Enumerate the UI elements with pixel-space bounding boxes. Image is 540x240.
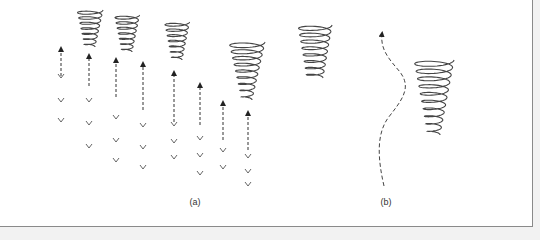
down-chevron-icon bbox=[245, 154, 251, 158]
down-chevron-icon bbox=[171, 155, 177, 159]
panel-label-a: (a) bbox=[190, 197, 201, 207]
down-chevron-icon bbox=[58, 118, 64, 122]
vortex-spiral-icon bbox=[115, 15, 140, 52]
down-chevron-icon bbox=[86, 121, 92, 125]
vortex-spiral-icon bbox=[415, 60, 454, 135]
panel-a-diagram bbox=[58, 10, 332, 186]
down-chevron-icon bbox=[220, 165, 226, 169]
panel-b-diagram bbox=[379, 34, 454, 186]
panel-label-b: (b) bbox=[381, 197, 392, 207]
down-chevron-icon bbox=[220, 148, 226, 152]
down-chevron-icon bbox=[171, 122, 177, 126]
down-chevron-icon bbox=[113, 115, 119, 119]
down-chevron-icon bbox=[245, 169, 251, 173]
down-chevron-icon bbox=[140, 123, 146, 127]
vortex-spiral-icon bbox=[299, 25, 332, 78]
down-chevron-icon bbox=[245, 182, 251, 186]
vortex-spiral-icon bbox=[78, 10, 103, 47]
wavy-updraft-arrow-icon bbox=[379, 34, 405, 186]
down-chevron-icon bbox=[140, 145, 146, 149]
down-chevron-icon bbox=[171, 139, 177, 143]
down-chevron-icon bbox=[113, 158, 119, 162]
down-chevron-icon bbox=[86, 98, 92, 102]
down-chevron-icon bbox=[86, 144, 92, 148]
vortex-spiral-icon bbox=[230, 42, 265, 100]
diagram-canvas bbox=[0, 0, 540, 240]
down-chevron-icon bbox=[197, 136, 203, 140]
down-chevron-icon bbox=[113, 138, 119, 142]
down-chevron-icon bbox=[197, 153, 203, 157]
down-chevron-icon bbox=[140, 165, 146, 169]
down-chevron-icon bbox=[58, 98, 64, 102]
vortex-spiral-icon bbox=[165, 22, 190, 60]
down-chevron-icon bbox=[197, 171, 203, 175]
